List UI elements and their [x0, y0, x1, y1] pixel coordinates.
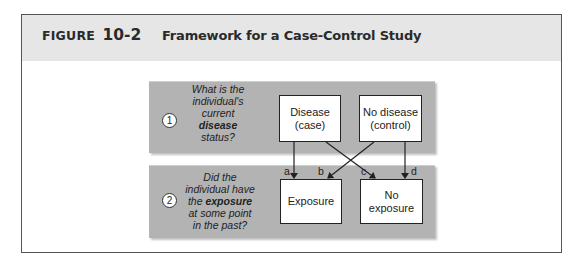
arrow-label-c: c	[361, 165, 366, 177]
connector-arrows	[0, 0, 584, 264]
arrow-label-b: b	[318, 165, 324, 177]
arrow-label-a: a	[284, 165, 290, 177]
arrow-label-d: d	[411, 165, 417, 177]
